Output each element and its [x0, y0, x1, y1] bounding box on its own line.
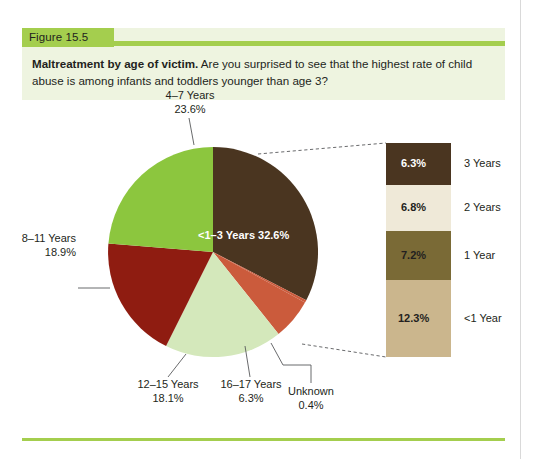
bar-category-3-years: 3 Years: [464, 157, 501, 169]
bar-value-3-years: 6.3%: [401, 157, 426, 169]
figure-footer-rule: [22, 438, 505, 441]
pie-label-unknown-name: Unknown: [288, 385, 334, 397]
bar-category-under-1-year: <1 Year: [464, 312, 502, 324]
pie-label-under1-3-years: <1–3 Years 32.6%: [198, 228, 288, 242]
pie-slices: [108, 147, 318, 357]
pie-label-4-7-years-name: 4–7 Years: [166, 89, 215, 101]
bar-value-2-years: 6.8%: [401, 201, 426, 213]
figure-page: Figure 15.5 Maltreatment by age of victi…: [0, 0, 537, 459]
pie-label-under1-3-years-value: 32.6%: [258, 229, 289, 241]
pie-label-12-15-years-name: 12–15 Years: [137, 378, 198, 390]
callout-line-bottom: [302, 344, 386, 357]
pie-label-unknown-value: 0.4%: [264, 398, 358, 412]
bar-value-under-1-year: 12.3%: [398, 312, 429, 324]
pie-label-8-11-years-value: 18.9%: [0, 245, 76, 259]
pie-label-8-11-years: 8–11 Years 18.9%: [0, 231, 76, 259]
chart-stage: <1–3 Years 32.6% 4–7 Years 23.6% 8–11 Ye…: [0, 100, 537, 430]
figure-caption-text: Maltreatment by age of victim. Are you s…: [32, 55, 494, 89]
callout-line-top: [258, 143, 386, 154]
pie-label-4-7-years: 4–7 Years 23.6%: [144, 88, 236, 116]
leader-4-7-years: [189, 118, 194, 145]
pie-label-4-7-years-value: 23.6%: [144, 102, 236, 116]
figure-number-tag: Figure 15.5: [22, 28, 114, 47]
bar-category-2-years: 2 Years: [464, 201, 501, 213]
bar-category-1-year: 1 Year: [464, 249, 495, 261]
pie-label-unknown: Unknown 0.4%: [264, 384, 358, 412]
pie-label-under1-3-years-name: <1–3 Years: [198, 229, 255, 241]
leader-12-15-years: [168, 354, 186, 377]
bar-value-1-year: 7.2%: [401, 249, 426, 261]
pie-label-8-11-years-name: 8–11 Years: [22, 232, 76, 244]
figure-caption-lead: Maltreatment by age of victim.: [32, 57, 198, 70]
